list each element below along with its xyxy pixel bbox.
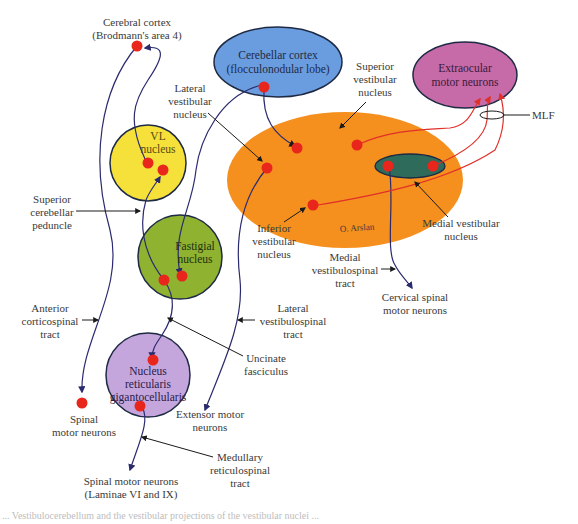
superior-vestibular-label-1: Superior — [356, 60, 394, 72]
uncinate-label-2: fasciculus — [244, 365, 288, 377]
lvst-label-2: vestibulospinal — [260, 315, 327, 327]
superior-vestibular-label-2: vestibular — [353, 73, 397, 85]
reticularis-label-3: gigantocellularis — [110, 391, 187, 404]
fastigial-neuron-1 — [159, 275, 170, 286]
cerebellar-cortex-ellipse — [214, 27, 342, 97]
spinal-motor-neuron — [77, 398, 88, 409]
lvst-label-3: tract — [283, 328, 303, 340]
extraocular-label-2: motor neurons — [432, 76, 499, 88]
scp-label-1: Superior — [33, 193, 71, 205]
medial-vestibular-label-2: nucleus — [444, 230, 478, 242]
medial-vestibular-neuron-1 — [383, 161, 394, 172]
lateral-vestibular-neuron — [262, 163, 273, 174]
mvst-label-1: Medial — [329, 251, 360, 263]
reticulospinal-label-1: Medullary — [217, 451, 263, 463]
vl-neuron-2 — [158, 165, 169, 176]
lateral-vestibular-label-3: nucleus — [173, 108, 207, 120]
reticulospinal-pointer — [142, 437, 213, 457]
lateral-vestibular-label-2: vestibular — [168, 95, 212, 107]
vestibular-neuron-upper — [292, 143, 303, 154]
cerebral-cortex-label-1: Cerebral cortex — [103, 16, 172, 28]
spinal-motor-label-1: Spinal — [70, 413, 98, 425]
medial-vestibular-label-1: Medial vestibular — [422, 217, 500, 229]
fastigial-label-2: nucleus — [177, 253, 213, 265]
cerebellar-cortex-label-2: (flocculonodular lobe) — [226, 63, 329, 76]
cervical-spinal-label-1: Cervical spinal — [382, 291, 448, 303]
extraocular-label-1: Extraocular — [438, 62, 492, 74]
inferior-vestibular-label-2: vestibular — [252, 235, 296, 247]
vl-label-1: VL — [150, 130, 165, 142]
reticularis-label-1: Nucleus — [129, 365, 167, 377]
lateral-vestibular-label-1: Lateral — [174, 82, 205, 94]
cervical-spinal-label-2: motor neurons — [383, 304, 447, 316]
scp-label-2: cerebellar — [30, 206, 74, 218]
vl-label-2: nucleus — [140, 143, 176, 155]
extensor-motor-label-1: Extensor motor — [176, 408, 244, 420]
reticularis-label-2: reticularis — [125, 378, 172, 390]
mvst-label-3: tract — [335, 277, 355, 289]
cerebellar-cortex-label-1: Cerebellar cortex — [238, 49, 318, 61]
scp-label-3: peduncle — [32, 219, 72, 231]
fastigial-label-1: Fastigial — [175, 240, 215, 253]
extensor-motor-label-2: neurons — [193, 421, 228, 433]
acst-label-1: Anterior — [31, 302, 69, 314]
mlf-bracket — [480, 111, 504, 119]
superior-vestibular-neuron — [352, 140, 363, 151]
medial-vestibular-neuron-2 — [428, 161, 439, 172]
inferior-vestibular-neuron — [308, 200, 319, 211]
superior-vestibular-label-3: nucleus — [358, 86, 392, 98]
laminae-motor-label-2: (Laminae VI and IX) — [85, 488, 178, 501]
vestibular-pathways-diagram: Cerebellar cortex (flocculonodular lobe)… — [0, 0, 578, 524]
laminae-motor-label-1: Spinal motor neurons — [84, 475, 179, 487]
mlf-label: MLF — [532, 109, 555, 121]
inferior-vestibular-label-1: Inferior — [257, 222, 291, 234]
fastigial-neuron-2 — [177, 271, 188, 282]
mvst-label-2: vestibulospinal — [312, 264, 379, 276]
uncinate-label-1: Uncinate — [246, 352, 286, 364]
reticulospinal-label-3: tract — [230, 477, 250, 489]
acst-label-2: corticospinal — [22, 315, 79, 327]
vl-neuron-1 — [143, 158, 154, 169]
lvst-label-1: Lateral — [277, 302, 308, 314]
spinal-motor-label-2: motor neurons — [52, 426, 116, 438]
reticularis-neuron-1 — [148, 355, 159, 366]
cerebellar-cortex-neuron — [259, 82, 270, 93]
cerebral-cortex-neuron — [132, 41, 143, 52]
inferior-vestibular-label-3: nucleus — [257, 248, 291, 260]
cerebral-cortex-label-2: (Brodmann's area 4) — [92, 29, 182, 42]
acst-label-3: tract — [40, 328, 60, 340]
figure-caption: ... Vestibulocerebellum and the vestibul… — [2, 510, 578, 524]
reticulospinal-label-2: reticulospinal — [210, 464, 270, 476]
